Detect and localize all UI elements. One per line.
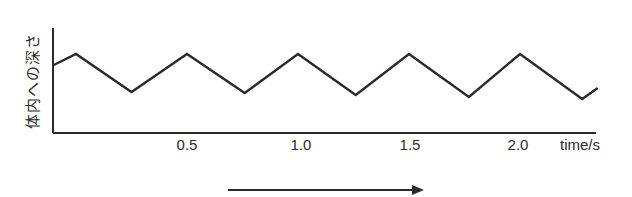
x-tick-0-5: 0.5 — [177, 136, 198, 153]
time-direction-arrow — [228, 185, 424, 195]
x-tick-1-0: 1.0 — [291, 136, 312, 153]
x-tick-1-5: 1.5 — [400, 136, 421, 153]
y-axis-label: 体内への深さ — [21, 33, 42, 129]
chart-canvas — [0, 0, 632, 197]
depth-series-line — [54, 54, 598, 99]
x-tick-2-0: 2.0 — [508, 136, 529, 153]
arrowhead-icon — [412, 185, 424, 195]
x-axis-label: time/s — [560, 136, 600, 153]
